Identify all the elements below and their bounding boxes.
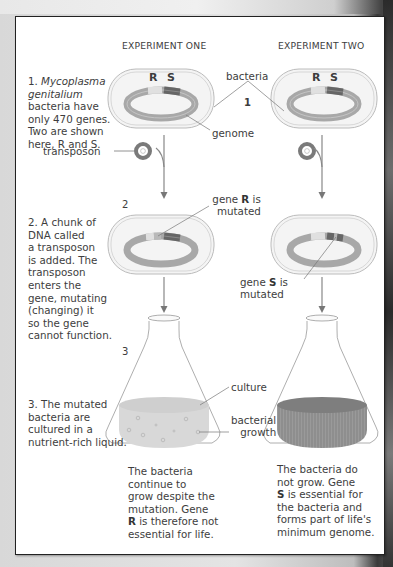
gene-r-label-exp1: R bbox=[149, 72, 157, 84]
bacterium-exp2-mutated bbox=[271, 215, 377, 274]
marker-1: 1 bbox=[244, 97, 251, 109]
step3-number: 3. bbox=[28, 398, 38, 410]
bacterium-exp2-step1 bbox=[271, 69, 377, 128]
step1-number: 1. bbox=[28, 75, 38, 87]
bacterium-exp1-mutated bbox=[108, 215, 214, 274]
gene-s-label-exp2: S bbox=[330, 72, 338, 84]
gene-s-label-exp1: S bbox=[167, 72, 175, 84]
step3-text: 3. The mutated bacteria are cultured in … bbox=[28, 398, 127, 448]
transposon-label: transposon bbox=[43, 145, 101, 157]
gene-r-label-exp2: R bbox=[312, 72, 320, 84]
result-experiment-two: The bacteria do not grow. Gene S is esse… bbox=[277, 463, 374, 539]
gene-r-mutated-label: gene R is mutated bbox=[209, 193, 261, 217]
bacterial-growth-label: bacterial growth bbox=[231, 414, 276, 438]
step2-text: 2. A chunk of DNA called a transposon is… bbox=[28, 216, 112, 342]
gene-s-mutated-label: gene S is mutated bbox=[240, 276, 288, 300]
species-name-1: Mycoplasma bbox=[41, 75, 105, 87]
bacteria-label: bacteria bbox=[226, 70, 268, 82]
background-photo-top bbox=[0, 0, 393, 14]
transposon-exp1 bbox=[136, 144, 150, 158]
genome-label: genome bbox=[212, 127, 254, 139]
marker-3: 3 bbox=[122, 346, 128, 358]
step1-text: 1. Mycoplasma genitalium bacteria have o… bbox=[28, 75, 110, 151]
transposon-exp2 bbox=[300, 144, 314, 158]
marker-2: 2 bbox=[122, 199, 128, 211]
result-experiment-one: The bacteria continue to grow despite th… bbox=[128, 465, 218, 541]
bacterium-exp1-step1 bbox=[108, 69, 214, 128]
diagram-card: EXPERIMENT ONE EXPERIMENT TWO bbox=[15, 16, 385, 555]
species-name-2: genitalium bbox=[28, 88, 83, 100]
flask-exp2 bbox=[264, 315, 378, 448]
culture-label: culture bbox=[231, 381, 267, 393]
step2-number: 2. bbox=[28, 216, 38, 228]
